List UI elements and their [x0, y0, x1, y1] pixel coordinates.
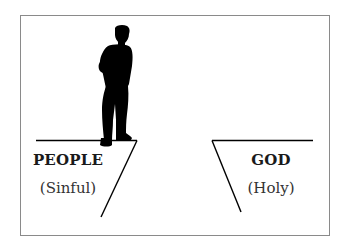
- god-subtitle: (Holy): [247, 179, 294, 197]
- person-silhouette-icon: [99, 25, 133, 147]
- chasm-diagram: [0, 0, 346, 248]
- god-title: GOD: [251, 151, 290, 169]
- people-subtitle: (Sinful): [40, 179, 96, 197]
- people-title: PEOPLE: [33, 151, 103, 169]
